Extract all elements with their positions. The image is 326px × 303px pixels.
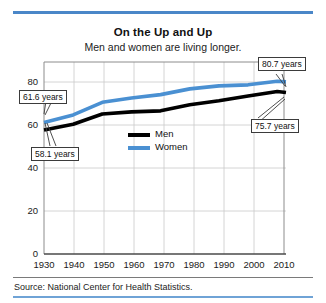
- x-tick-2010: 2010: [273, 259, 294, 270]
- y-tick-80: 80: [27, 76, 38, 87]
- chart-gridlines: [44, 62, 286, 254]
- leader-men-1930: [45, 123, 50, 146]
- bottom-accent-rule: [13, 296, 313, 298]
- x-tick-1950: 1950: [93, 259, 114, 270]
- chart-figure: On the Up and Up Men and women are livin…: [0, 0, 326, 303]
- y-tick-20: 20: [27, 205, 38, 216]
- y-tick-0: 0: [33, 248, 38, 259]
- legend-swatch-women: [128, 146, 150, 150]
- legend-swatch-men: [128, 133, 150, 137]
- x-tick-1970: 1970: [153, 259, 174, 270]
- y-tick-60: 60: [27, 119, 38, 130]
- y-tick-40: 40: [27, 162, 38, 173]
- callout-women-1930: 61.6 years: [19, 90, 67, 104]
- x-tick-1980: 1980: [183, 259, 204, 270]
- callout-men-2013: 75.7 years: [251, 119, 299, 133]
- source-divider: [13, 277, 313, 278]
- x-axis-ticks: 1930 1940 1950 1960 1970 1980 1990 2000 …: [33, 259, 294, 270]
- x-tick-2000: 2000: [243, 259, 264, 270]
- x-tick-1930: 1930: [33, 259, 54, 270]
- legend-label-men: Men: [155, 128, 173, 139]
- leader-men-2013: [258, 97, 284, 118]
- source-note: Source: National Center for Health Stati…: [14, 282, 193, 292]
- x-tick-1960: 1960: [123, 259, 144, 270]
- legend-label-women: Women: [155, 141, 188, 152]
- x-tick-1940: 1940: [63, 259, 84, 270]
- series-line-women: [44, 81, 286, 122]
- chart-series-layer: [44, 81, 286, 130]
- x-tick-1990: 1990: [213, 259, 234, 270]
- callout-men-1930: 58.1 years: [31, 147, 79, 161]
- callout-women-2013: 80.7 years: [258, 57, 306, 71]
